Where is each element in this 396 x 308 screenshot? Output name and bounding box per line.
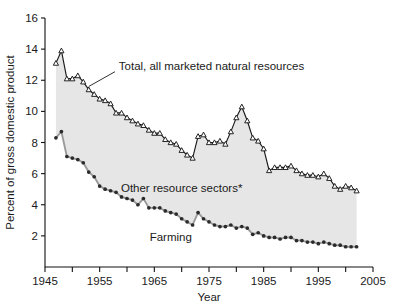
- farming-data-point: [114, 190, 118, 194]
- farming-series-label: Farming: [150, 231, 192, 243]
- farming-data-point: [87, 170, 91, 174]
- farming-data-point: [202, 217, 206, 221]
- y-tick-label: 16: [25, 12, 38, 24]
- x-tick-label: 1995: [306, 275, 332, 287]
- farming-data-point: [240, 225, 244, 229]
- farming-data-point: [207, 220, 211, 224]
- x-axis-title: Year: [197, 291, 220, 303]
- total-data-point: [103, 98, 108, 103]
- farming-data-point: [333, 243, 337, 247]
- total-data-point: [70, 76, 75, 81]
- total-data-point: [283, 165, 288, 170]
- total-data-point: [272, 165, 277, 170]
- farming-data-point: [306, 240, 310, 244]
- total-data-point: [288, 163, 293, 168]
- farming-data-point: [142, 197, 146, 201]
- total-data-point: [310, 173, 315, 178]
- total-data-point: [256, 138, 261, 143]
- farming-data-point: [267, 236, 271, 240]
- total-data-point: [349, 185, 354, 190]
- farming-data-point: [65, 155, 69, 159]
- farming-data-point: [125, 197, 129, 201]
- total-data-point: [277, 165, 282, 170]
- y-tick-label: 6: [32, 168, 38, 180]
- farming-data-point: [169, 211, 173, 215]
- total-data-point: [157, 131, 162, 136]
- total-data-point: [119, 110, 124, 115]
- chart-container: 2468101214161945195519651975198519952005…: [0, 0, 396, 308]
- farming-data-point: [256, 231, 260, 235]
- farming-data-point: [70, 156, 74, 160]
- farming-data-point: [349, 245, 353, 249]
- farming-data-point: [327, 242, 331, 246]
- total-series-label: Total, all marketed natural resources: [119, 60, 305, 72]
- farming-data-point: [344, 245, 348, 249]
- y-tick-label: 14: [25, 43, 38, 55]
- y-axis-title: Percent of gross domestic product: [4, 54, 16, 229]
- total-data-point: [354, 188, 359, 193]
- farming-data-point: [180, 217, 184, 221]
- x-tick-label: 1985: [251, 275, 277, 287]
- farming-data-point: [213, 223, 217, 227]
- total-data-point: [141, 123, 146, 128]
- farming-data-point: [147, 206, 151, 210]
- farming-data-point: [278, 237, 282, 241]
- total-data-point: [195, 134, 200, 139]
- farming-data-point: [229, 223, 233, 227]
- x-tick-label: 2005: [360, 275, 386, 287]
- farming-data-point: [109, 189, 113, 193]
- farming-data-point: [218, 225, 222, 229]
- farming-data-point: [355, 245, 359, 249]
- farming-data-point: [300, 239, 304, 243]
- band-label: Other resource sectors*: [121, 182, 243, 194]
- y-tick-label: 2: [32, 230, 38, 242]
- total-data-point: [168, 140, 173, 145]
- farming-data-point: [174, 212, 178, 216]
- farming-data-point: [284, 236, 288, 240]
- x-tick-label: 1945: [32, 275, 58, 287]
- x-tick-label: 1955: [87, 275, 113, 287]
- farming-data-point: [60, 130, 64, 134]
- total-data-point: [174, 141, 179, 146]
- total-data-point: [152, 131, 157, 136]
- farming-data-point: [251, 232, 255, 236]
- farming-data-point: [98, 184, 102, 188]
- farming-data-point: [163, 209, 167, 213]
- total-data-point: [108, 101, 113, 106]
- total-data-point: [135, 121, 140, 126]
- farming-data-point: [224, 225, 228, 229]
- total-data-point: [316, 174, 321, 179]
- farming-data-point: [185, 220, 189, 224]
- farming-data-point: [54, 136, 58, 140]
- total-data-point: [299, 171, 304, 176]
- y-tick-label: 12: [25, 74, 38, 86]
- farming-data-point: [289, 236, 293, 240]
- other-resource-sectors-band: [56, 51, 357, 247]
- y-tick-label: 8: [32, 137, 38, 149]
- farming-data-point: [120, 195, 124, 199]
- x-tick-label: 1975: [196, 275, 222, 287]
- y-tick-label: 4: [32, 199, 39, 211]
- farming-data-point: [295, 239, 299, 243]
- total-data-point: [212, 140, 217, 145]
- farming-data-point: [152, 206, 156, 210]
- farming-data-point: [273, 236, 277, 240]
- farming-data-point: [76, 158, 80, 162]
- total-data-point: [201, 132, 206, 137]
- farming-data-point: [234, 226, 238, 230]
- farming-data-point: [158, 206, 162, 210]
- farming-data-point: [103, 187, 107, 191]
- total-data-point: [343, 183, 348, 188]
- farming-data-point: [311, 240, 315, 244]
- chart-svg: 2468101214161945195519651975198519952005…: [0, 0, 396, 308]
- total-data-point: [321, 171, 326, 176]
- farming-data-point: [81, 161, 85, 165]
- farming-data-point: [322, 240, 326, 244]
- farming-data-point: [262, 234, 266, 238]
- farming-data-point: [316, 242, 320, 246]
- total-data-point: [305, 173, 310, 178]
- farming-data-point: [92, 175, 96, 179]
- total-data-point: [338, 187, 343, 192]
- total-data-point: [75, 73, 80, 78]
- farming-data-point: [131, 198, 135, 202]
